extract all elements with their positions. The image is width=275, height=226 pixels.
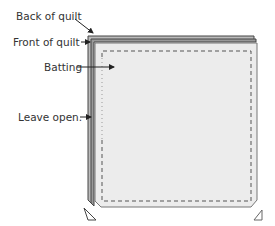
label-batting: Batting bbox=[44, 61, 82, 73]
label-front-of-quilt: Front of quilt bbox=[13, 36, 80, 48]
corner-marker-right bbox=[254, 210, 262, 220]
label-leave-open: Leave open. bbox=[18, 111, 82, 123]
label-back-of-quilt: Back of quilt bbox=[16, 10, 82, 22]
batting-layer bbox=[95, 43, 257, 207]
